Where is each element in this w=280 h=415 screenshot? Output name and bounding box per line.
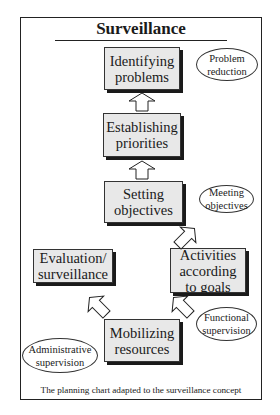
arrow-diagonal-icon <box>172 223 200 251</box>
ellipse-text-line: Administrative <box>29 343 92 356</box>
box-text-line: Setting <box>114 186 173 202</box>
title-underline <box>55 40 227 41</box>
box-text-line: Mobilizing <box>110 325 174 341</box>
box-text-line: surveillance <box>38 266 108 282</box>
diagram-title: Surveillance <box>55 19 227 39</box>
ellipse-text-line: supervision <box>29 356 92 369</box>
ellipse-text-line: reduction <box>207 65 247 78</box>
box-mobilizing-resources: Mobilizing resources <box>104 319 180 362</box>
box-identifying-problems: Identifying problems <box>104 47 180 90</box>
ellipse-text-line: Meeting <box>205 186 248 199</box>
box-establishing-priorities: Establishing priorities <box>103 113 181 157</box>
box-evaluation-surveillance: Evaluation/ surveillance <box>33 249 113 283</box>
arrow-up-icon <box>127 92 157 112</box>
box-setting-objectives: Setting objectives <box>104 181 183 223</box>
box-text-line: according <box>179 263 236 279</box>
ellipse-administrative-supervision: Administrative supervision <box>22 338 98 373</box>
box-text-line: resources <box>110 341 174 357</box>
box-text-line: Establishing <box>106 119 178 135</box>
ellipse-text-line: Problem <box>207 52 247 65</box>
box-text-line: priorities <box>106 135 178 151</box>
box-text-line: objectives <box>114 202 173 218</box>
box-text-line: Evaluation/ <box>38 250 108 266</box>
box-text-line: Identifying <box>110 53 174 69</box>
ellipse-functional-supervision: Functional supervision <box>196 307 257 341</box>
ellipse-meeting-objectives: Meeting objectives <box>199 185 254 213</box>
box-activities-according-to-goals: Activities according to goals <box>170 248 246 293</box>
ellipse-text-line: supervision <box>202 324 250 337</box>
arrow-up-icon <box>127 160 157 180</box>
ellipse-problem-reduction: Problem reduction <box>196 48 258 81</box>
ellipse-text-line: Functional <box>202 311 250 324</box>
arrow-diagonal-icon <box>84 292 112 320</box>
arrow-diagonal-icon <box>168 292 196 320</box>
diagram-caption: The planning chart adapted to the survei… <box>21 384 261 396</box>
ellipse-text-line: objectives <box>205 199 248 212</box>
box-text-line: problems <box>110 69 174 85</box>
